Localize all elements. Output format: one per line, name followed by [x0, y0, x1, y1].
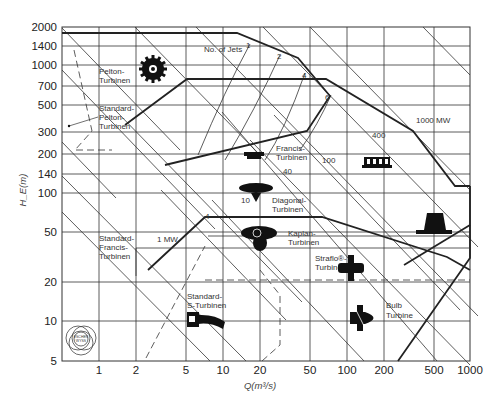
- bulb-turbine-icon: [350, 305, 374, 331]
- escher-wyss-logo: ESCHER WYSS: [66, 326, 96, 355]
- jets-1: 1: [246, 41, 251, 50]
- y-tick-140: 140: [38, 168, 57, 180]
- x-axis-label: Q(m³/s): [244, 380, 276, 391]
- logo-text-2: WYSS: [76, 339, 87, 343]
- label-std-pelton-1: Standard-: [99, 104, 134, 113]
- isoline-label-1000mw: 1000 MW: [416, 116, 451, 125]
- isoline-label-1mw: 1 MW: [157, 235, 178, 244]
- label-std-pelton-2: Pelton-: [99, 113, 125, 122]
- y-axis-label: H_E(m): [17, 174, 28, 207]
- y-tick-2000: 2000: [31, 21, 57, 33]
- y-tick-500: 500: [38, 99, 57, 111]
- turbine-application-chart: 2000 1400 1000 700 500 300 200 140 100 5…: [0, 0, 499, 407]
- y-tick-20: 20: [44, 276, 57, 288]
- isoline-label-4: 4: [205, 212, 210, 221]
- y-tick-1000: 1000: [31, 59, 57, 71]
- y-tick-labels: 2000 1400 1000 700 500 300 200 140 100 5…: [31, 21, 57, 367]
- label-diagonal-2: Turbinen: [272, 205, 303, 214]
- label-pelton-1: Pelton-: [99, 67, 125, 76]
- jets-4: 4: [302, 71, 307, 80]
- x-tick-5: 5: [183, 364, 189, 376]
- isoline-label-400: 400: [372, 131, 386, 140]
- label-bulb-2: Turbine: [386, 311, 413, 320]
- label-std-pelton-3: Turbinen: [99, 122, 130, 131]
- label-std-francis-3: Turbinen: [99, 252, 130, 261]
- x-tick-2: 2: [133, 364, 139, 376]
- label-std-francis-1: Standard-: [99, 234, 134, 243]
- isoline-label-10: 10: [241, 196, 250, 205]
- label-std-s-1: Standard-: [187, 292, 222, 301]
- isoline-label-100: 100: [322, 156, 336, 165]
- label-pelton-2: Turbinen: [99, 76, 130, 85]
- y-tick-5: 5: [51, 355, 57, 367]
- y-tick-1400: 1400: [31, 40, 57, 52]
- jets-6: 6: [325, 93, 330, 102]
- std-pelton-leader: [69, 117, 98, 126]
- x-tick-100: 100: [337, 364, 356, 376]
- pelton-jet-curves: [198, 44, 331, 160]
- x-tick-1: 1: [96, 364, 102, 376]
- y-tick-10: 10: [44, 315, 57, 327]
- y-tick-700: 700: [38, 80, 57, 92]
- x-tick-20: 20: [254, 364, 267, 376]
- label-straflo-1: Straflo®-: [315, 254, 347, 263]
- std-pelton-dot: [68, 125, 70, 127]
- x-tick-200: 200: [374, 364, 393, 376]
- label-std-s-2: S-Turbinen: [187, 301, 226, 310]
- x-tick-50: 50: [304, 364, 317, 376]
- s-turbine-icon: [187, 312, 225, 329]
- x-tick-1000: 1000: [457, 364, 483, 376]
- isoline-labels: 1 MW 4 10 40 100 400 1000 MW: [157, 116, 451, 244]
- isoline-label-40: 40: [283, 167, 292, 176]
- pelton-wheel-icon: [139, 55, 167, 83]
- large-kaplan-runner-icon: [416, 213, 452, 234]
- x-tick-10: 10: [217, 364, 230, 376]
- label-francis-1: Francis-: [276, 144, 305, 153]
- label-kaplan-1: Kaplan-: [288, 229, 316, 238]
- label-std-francis-2: Francis-: [99, 243, 128, 252]
- y-tick-200: 200: [38, 148, 57, 160]
- label-diagonal-1: Diagonal-: [272, 196, 307, 205]
- label-kaplan-2: Turbinen: [288, 238, 319, 247]
- x-tick-500: 500: [424, 364, 443, 376]
- label-bulb-1: Bulb: [386, 301, 403, 310]
- label-francis-2: Turbinen: [276, 153, 307, 162]
- kaplan-runner-icon: [241, 226, 277, 251]
- y-tick-50: 50: [44, 226, 57, 238]
- jets-2: 2: [277, 52, 282, 61]
- y-tick-100: 100: [38, 187, 57, 199]
- francis-large-runner-icon: [362, 157, 392, 168]
- x-tick-labels: 1 2 5 10 20 50 100 200 500 1000: [96, 364, 483, 376]
- francis-runner-icon: [244, 152, 264, 159]
- y-tick-300: 300: [38, 126, 57, 138]
- jets-label: No. of Jets: [204, 45, 242, 54]
